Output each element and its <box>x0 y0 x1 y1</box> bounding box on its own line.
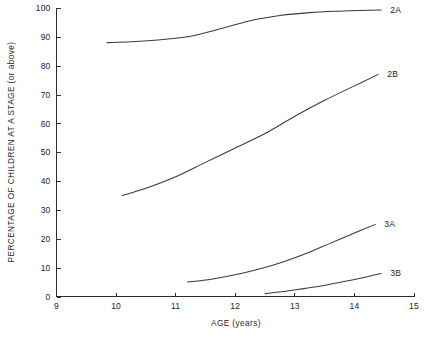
y-tick-label: 20 <box>41 234 51 244</box>
x-tick-label: 10 <box>111 301 121 311</box>
series-label-3b: 3B <box>390 268 401 278</box>
y-tick-label: 10 <box>41 263 51 273</box>
chart-container: 0102030405060708090100 9101112131415 2A2… <box>0 0 425 339</box>
x-tick-label: 9 <box>54 301 59 311</box>
series-label-2a: 2A <box>390 5 401 15</box>
y-tick-label: 70 <box>41 90 51 100</box>
chart-series-labels: 2A2B3A3B <box>384 5 401 278</box>
series-label-3a: 3A <box>384 219 395 229</box>
x-tick-label: 12 <box>230 301 240 311</box>
series-label-2b: 2B <box>387 69 398 79</box>
line-chart: 0102030405060708090100 9101112131415 2A2… <box>0 0 425 339</box>
y-tick-label: 40 <box>41 176 51 186</box>
x-tick-label: 14 <box>349 301 359 311</box>
series-curve-3a <box>188 224 376 282</box>
y-tick-label: 0 <box>46 292 51 302</box>
chart-series-curves <box>107 10 381 294</box>
y-tick-label: 80 <box>41 61 51 71</box>
x-tick-label: 11 <box>171 301 180 311</box>
series-curve-3b <box>265 273 381 293</box>
y-tick-label: 100 <box>36 3 51 13</box>
y-tick-label: 90 <box>41 32 51 42</box>
y-axis-title: PERCENTAGE OF CHILDREN AT A STAGE (or ab… <box>7 42 16 263</box>
chart-axes <box>57 8 415 297</box>
y-tick-label: 50 <box>41 147 51 157</box>
x-axis-ticks: 9101112131415 <box>54 293 419 311</box>
series-curve-2a <box>107 10 381 43</box>
y-tick-label: 60 <box>41 119 51 129</box>
x-tick-label: 13 <box>290 301 300 311</box>
series-curve-2b <box>122 74 378 195</box>
x-axis-title: AGE (years) <box>211 319 261 328</box>
y-tick-label: 30 <box>41 205 51 215</box>
x-tick-label: 15 <box>409 301 419 311</box>
